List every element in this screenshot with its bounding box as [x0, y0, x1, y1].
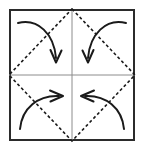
origami-fold-diagram: Origami fold step: fold four corners to …: [0, 0, 144, 153]
fold-diagram-canvas: Origami fold step: fold four corners to …: [0, 0, 144, 153]
